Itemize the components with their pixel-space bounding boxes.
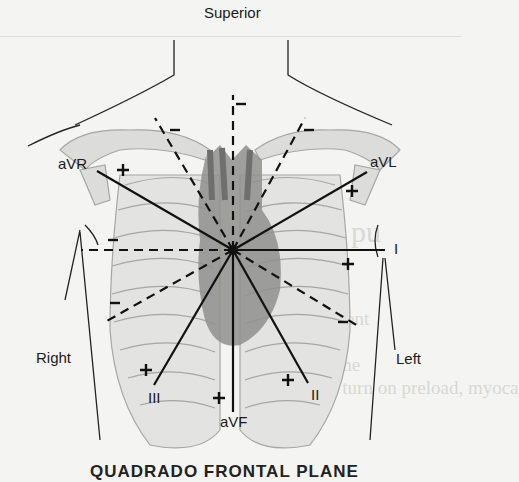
left-label: Left — [396, 350, 421, 367]
lead-ii-label: II — [311, 386, 319, 403]
avr-label: aVR — [58, 155, 87, 172]
superior-label: Superior — [204, 4, 261, 21]
lead-iii-label: III — [148, 389, 161, 406]
avf-label: aVF — [220, 413, 248, 430]
figure-caption: QUADRADO FRONTAL PLANE — [90, 462, 359, 482]
right-label: Right — [36, 349, 71, 366]
lead-i-label: I — [394, 240, 398, 257]
avl-label: aVL — [370, 153, 397, 170]
center-point — [228, 245, 238, 255]
